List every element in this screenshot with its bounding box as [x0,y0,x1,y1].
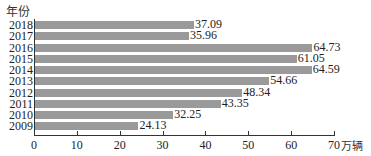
bar [35,32,189,40]
x-axis-unit-label: 万辆 [341,137,363,153]
bar [35,89,242,97]
x-tick-label: 40 [193,138,217,153]
bar [35,55,297,63]
x-tick-mark [77,131,78,135]
bar-row: 201464.59 [0,65,371,76]
bar [35,122,138,130]
x-tick-mark [163,131,164,135]
x-tick-mark [205,131,206,135]
bar-value-label: 35.96 [190,30,217,41]
bar-row: 201837.09 [0,20,371,31]
bar-value-label: 32.25 [174,109,201,120]
bar-value-label: 64.59 [313,64,340,75]
bar-value-label: 24.13 [139,120,166,131]
bar-row: 200924.13 [0,121,371,132]
x-tick-label: 30 [151,138,175,153]
bar-row: 201354.66 [0,76,371,87]
y-axis-title: 年份 [6,2,30,19]
x-tick-mark [120,131,121,135]
x-tick-label: 60 [279,138,303,153]
x-tick-mark [291,131,292,135]
y-tick-label: 2009 [4,121,33,132]
x-axis-line [34,135,335,136]
x-tick-label: 50 [236,138,260,153]
x-tick-label: 20 [108,138,132,153]
bar-chart: 年份 201837.09201735.96201664.73201561.052… [0,0,371,156]
bar-value-label: 54.66 [270,75,297,86]
x-tick-label: 0 [22,138,46,153]
x-tick-mark [248,131,249,135]
bar-row: 201248.34 [0,88,371,99]
bar [35,77,269,85]
x-tick-mark [334,131,335,135]
bar-value-label: 43.35 [222,98,249,109]
bar-row: 201032.25 [0,110,371,121]
bar [35,21,194,29]
bar [35,44,312,52]
x-tick-label: 10 [65,138,89,153]
